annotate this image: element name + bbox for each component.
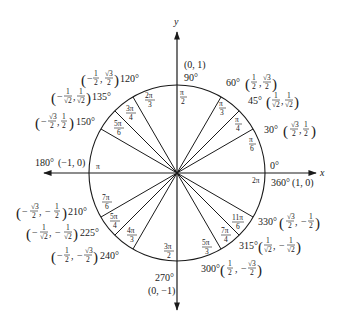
rad-210: 7π 6 xyxy=(102,193,112,211)
svg-text:): ) xyxy=(69,115,74,132)
svg-text:−: − xyxy=(77,250,83,261)
svg-text:,: , xyxy=(71,250,74,261)
svg-text:,: , xyxy=(39,206,42,217)
svg-text:π: π xyxy=(219,99,223,108)
svg-text:2: 2 xyxy=(228,268,232,277)
svg-text:2: 2 xyxy=(288,221,292,230)
label-180-point: (−1, 0) xyxy=(58,157,85,169)
svg-text:√2: √2 xyxy=(287,245,295,254)
svg-text:6: 6 xyxy=(105,202,109,211)
svg-text:3π: 3π xyxy=(126,104,134,113)
svg-text:−: − xyxy=(41,116,47,127)
svg-text:(: ( xyxy=(266,94,271,111)
svg-text:2: 2 xyxy=(50,121,54,130)
unit-circle-diagram: x y π 2 π 3 π 4 xyxy=(0,0,348,327)
svg-text:2: 2 xyxy=(55,211,59,220)
svg-text:−: − xyxy=(57,250,63,261)
svg-text:1: 1 xyxy=(266,236,270,245)
svg-text:4: 4 xyxy=(224,235,228,244)
svg-text:3: 3 xyxy=(130,235,134,244)
rad-360: 2π xyxy=(252,176,260,185)
svg-text:(: ( xyxy=(258,239,263,256)
svg-text:315°: 315° xyxy=(239,240,258,251)
svg-text:1: 1 xyxy=(62,112,66,121)
svg-text:−: − xyxy=(32,227,38,238)
svg-text:(: ( xyxy=(35,115,40,132)
svg-text:7π: 7π xyxy=(221,226,229,235)
svg-text:): ) xyxy=(73,226,78,243)
svg-text:−: − xyxy=(87,73,93,84)
svg-text:1: 1 xyxy=(65,246,69,255)
svg-text:,: , xyxy=(273,240,276,251)
svg-text:): ) xyxy=(296,239,301,256)
svg-text:): ) xyxy=(257,262,262,279)
svg-text:√3: √3 xyxy=(85,246,93,255)
svg-text:−: − xyxy=(55,227,61,238)
svg-text:−: − xyxy=(301,216,307,227)
svg-text:60°: 60° xyxy=(226,77,240,88)
label-180-deg: 180° xyxy=(35,157,54,168)
svg-text:3π: 3π xyxy=(164,242,172,251)
rad-45: π 4 xyxy=(235,115,242,133)
svg-text:6: 6 xyxy=(250,144,254,153)
svg-text:330°: 330° xyxy=(258,216,277,227)
svg-text:240°: 240° xyxy=(100,250,119,261)
svg-text:): ) xyxy=(93,249,98,266)
svg-text:1: 1 xyxy=(66,87,70,96)
label-360-point: (1, 0) xyxy=(292,177,314,189)
rad-135: 3π 4 xyxy=(126,104,136,122)
svg-text:π: π xyxy=(235,115,239,124)
svg-text:135°: 135° xyxy=(92,91,111,102)
svg-text:1: 1 xyxy=(309,212,313,221)
svg-text:2: 2 xyxy=(265,82,269,91)
svg-text:(: ( xyxy=(51,249,56,266)
svg-text:1: 1 xyxy=(94,69,98,78)
svg-text:,: , xyxy=(49,227,52,238)
label-360-deg: 360° xyxy=(271,177,290,188)
svg-text:4: 4 xyxy=(236,124,240,133)
svg-text:√3: √3 xyxy=(31,202,39,211)
svg-text:2π: 2π xyxy=(145,91,153,100)
label-210: ( − √3 2 , − 1 2 ) 210° xyxy=(16,202,87,222)
svg-text:2: 2 xyxy=(304,129,308,138)
svg-text:7π: 7π xyxy=(102,193,110,202)
svg-text:): ) xyxy=(114,72,119,89)
svg-text:5π: 5π xyxy=(110,212,118,221)
svg-text:−: − xyxy=(57,91,63,102)
svg-text:−: − xyxy=(241,263,247,274)
svg-text:(: ( xyxy=(16,205,21,222)
svg-text:√2: √2 xyxy=(64,96,72,105)
svg-text:): ) xyxy=(62,205,67,222)
svg-text:3: 3 xyxy=(148,100,152,109)
x-axis-label: x xyxy=(319,167,325,178)
svg-text:,: , xyxy=(73,91,76,102)
label-60: 60° ( 1 2 , √3 2 ) xyxy=(226,73,277,93)
label-270-point: (0, −1) xyxy=(148,285,175,297)
svg-text:1: 1 xyxy=(289,236,293,245)
svg-text:3: 3 xyxy=(205,247,209,256)
svg-text:1: 1 xyxy=(79,87,83,96)
svg-text:5π: 5π xyxy=(202,238,210,247)
svg-text:,: , xyxy=(259,77,262,88)
svg-text:,: , xyxy=(100,73,103,84)
svg-text:): ) xyxy=(315,215,320,232)
svg-text:30°: 30° xyxy=(264,124,278,135)
rad-300: 5π 3 xyxy=(202,238,212,256)
svg-text:,: , xyxy=(299,124,302,135)
label-30: 30° ( √3 2 , 1 2 ) xyxy=(264,120,316,140)
svg-text:−: − xyxy=(22,206,28,217)
svg-text:π: π xyxy=(249,135,253,144)
label-150: ( − √3 2 , 1 2 ) 150° xyxy=(35,112,95,132)
svg-text:300°: 300° xyxy=(201,263,220,274)
svg-text:2: 2 xyxy=(292,129,296,138)
svg-text:150°: 150° xyxy=(76,116,95,127)
svg-text:1: 1 xyxy=(274,91,278,100)
svg-text:√3: √3 xyxy=(291,120,299,129)
rad-30: π 6 xyxy=(249,135,256,153)
rad-240: 4π 3 xyxy=(127,226,137,244)
label-90-point: (0, 1) xyxy=(184,59,206,71)
svg-text:2: 2 xyxy=(309,221,313,230)
rad-90: π 2 xyxy=(180,88,187,106)
label-240: ( − 1 2 , − √3 2 ) 240° xyxy=(51,246,119,266)
svg-text:120°: 120° xyxy=(120,73,139,84)
